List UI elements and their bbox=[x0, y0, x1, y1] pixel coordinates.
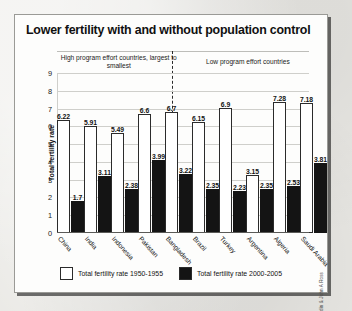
bar-value-label: 1.7 bbox=[73, 194, 82, 201]
chart-plot-area: Total fertility rate 0123456789 6.22Chin… bbox=[57, 73, 309, 233]
bar-value-label: 2.53 bbox=[287, 179, 300, 186]
bar-group: 6.6Pakistan3.99 bbox=[138, 73, 165, 233]
group-header-low-effort: Low program effort countries bbox=[187, 52, 309, 72]
bar-value-label: 6.15 bbox=[192, 115, 205, 122]
bar-value-label: 3.81 bbox=[314, 156, 327, 163]
group-header-band: High program effort countries, largest t… bbox=[57, 51, 309, 72]
bar-value-label: 7.28 bbox=[273, 95, 286, 102]
bar-group: 5.49Indonesia2.38 bbox=[111, 73, 138, 233]
bar: 1.7 bbox=[71, 201, 84, 233]
bar: 6.9Turkey bbox=[219, 108, 232, 233]
x-axis-line bbox=[57, 232, 309, 233]
bar-value-label: 2.35 bbox=[206, 182, 219, 189]
bar: 5.49Indonesia bbox=[111, 133, 124, 233]
bar: 6.6Pakistan bbox=[138, 114, 151, 233]
bar-group: 3.15Argentina2.35 bbox=[246, 73, 273, 233]
bar-group: 7.28Algeria2.53 bbox=[273, 73, 300, 233]
bar: 2.35 bbox=[260, 189, 273, 233]
y-tick-label: 5 bbox=[48, 140, 52, 149]
y-tick-label: 1 bbox=[48, 211, 52, 220]
x-category-label: Brazil bbox=[191, 235, 207, 252]
y-tick-label: 8 bbox=[48, 86, 52, 95]
bar: 6.22China bbox=[57, 120, 70, 233]
legend-label: Total fertility rate 2000-2005 bbox=[197, 270, 282, 277]
bar-value-label: 7.18 bbox=[300, 96, 313, 103]
bar: 2.35 bbox=[206, 189, 219, 233]
page-background: Lower fertility with and without populat… bbox=[0, 0, 352, 311]
bar-value-label: 6.22 bbox=[57, 113, 70, 120]
y-axis-label: Total fertility rate bbox=[48, 125, 55, 181]
bar-value-label: 6.9 bbox=[221, 101, 230, 108]
bar-value-label: 3.22 bbox=[179, 167, 192, 174]
legend-item: Total fertility rate 2000-2005 bbox=[179, 267, 282, 280]
bar-groups: 6.22China1.75.91India3.115.49Indonesia2.… bbox=[57, 73, 309, 233]
bar: 7.28Algeria bbox=[273, 102, 286, 233]
bar-value-label: 5.49 bbox=[111, 126, 124, 133]
bar-value-label: 5.91 bbox=[84, 119, 97, 126]
bar-group: 6.9Turkey2.23 bbox=[219, 73, 246, 233]
bar-group: 5.91India3.11 bbox=[84, 73, 111, 233]
bar: 3.81 bbox=[314, 163, 327, 233]
y-tick-label: 9 bbox=[48, 69, 52, 78]
source-credit: Source: UNFPA/W Parker Mauldin & John A … bbox=[319, 272, 324, 311]
bar: 7.18Saudi Arabia bbox=[300, 103, 313, 233]
x-category-label: India bbox=[83, 235, 98, 250]
x-category-label: Pakistan bbox=[137, 235, 159, 258]
bar: 2.38 bbox=[125, 189, 138, 233]
bar-group: 6.7Bangladesh3.22 bbox=[165, 73, 192, 233]
legend-label: Total fertility rate 1950-1955 bbox=[78, 270, 163, 277]
legend-swatch bbox=[60, 267, 73, 280]
x-category-label: Bangladesh bbox=[164, 235, 193, 266]
bar: 3.11 bbox=[98, 176, 111, 233]
bar-value-label: 2.35 bbox=[260, 182, 273, 189]
x-category-label: China bbox=[56, 235, 73, 252]
y-tick-label: 4 bbox=[48, 157, 52, 166]
chart-card: Lower fertility with and without populat… bbox=[14, 14, 328, 293]
y-tick-label: 2 bbox=[48, 193, 52, 202]
bar-group: 6.22China1.7 bbox=[57, 73, 84, 233]
bar: 3.99 bbox=[152, 160, 165, 233]
bar: 5.91India bbox=[84, 126, 97, 233]
bar-group: 7.18Saudi Arabia3.81 bbox=[300, 73, 327, 233]
bar-value-label: 2.23 bbox=[233, 184, 246, 191]
x-category-label: Indonesia bbox=[110, 235, 134, 261]
x-category-label: Algeria bbox=[272, 235, 291, 255]
group-header-high-effort: High program effort countries, largest t… bbox=[57, 52, 180, 72]
bar-value-label: 3.11 bbox=[98, 169, 111, 176]
bar-value-label: 6.6 bbox=[140, 107, 149, 114]
chart-legend: Total fertility rate 1950-1955Total fert… bbox=[15, 267, 327, 280]
y-tick-label: 7 bbox=[48, 104, 52, 113]
bar: 3.22 bbox=[179, 174, 192, 233]
bar-group: 6.15Brazil2.35 bbox=[192, 73, 219, 233]
bar-value-label: 2.38 bbox=[125, 182, 138, 189]
bar-value-label: 3.15 bbox=[246, 168, 259, 175]
bar-value-label: 3.99 bbox=[152, 153, 165, 160]
bar: 6.7Bangladesh bbox=[165, 112, 178, 233]
bar: 6.15Brazil bbox=[192, 122, 205, 233]
legend-swatch bbox=[179, 267, 192, 280]
x-category-label: Saudi Arabia bbox=[299, 235, 329, 267]
y-tick-label: 0 bbox=[48, 229, 52, 238]
bar: 2.23 bbox=[233, 191, 246, 233]
bar: 3.15Argentina bbox=[246, 175, 259, 233]
y-tick-label: 6 bbox=[48, 122, 52, 131]
y-tick-label: 3 bbox=[48, 175, 52, 184]
x-category-label: Argentina bbox=[245, 235, 269, 261]
bar-value-label: 6.7 bbox=[167, 105, 176, 112]
x-category-label: Turkey bbox=[218, 235, 237, 254]
legend-item: Total fertility rate 1950-1955 bbox=[60, 267, 163, 280]
bar: 2.53 bbox=[287, 186, 300, 233]
page-title: Lower fertility with and without populat… bbox=[26, 23, 311, 38]
